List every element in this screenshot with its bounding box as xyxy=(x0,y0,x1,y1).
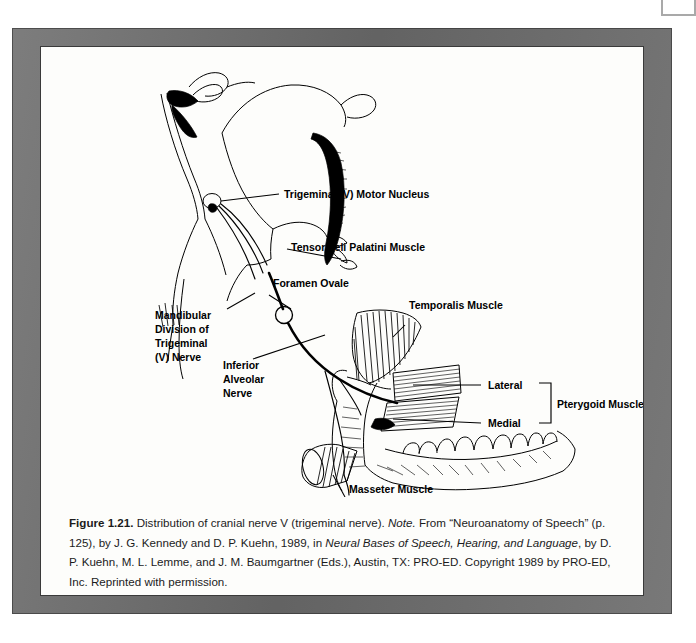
scan-edge-artifact xyxy=(661,0,696,16)
label-medial: Medial xyxy=(488,417,521,429)
label-inferior-alveolar-line-1: Inferior xyxy=(223,359,259,371)
photo-frame-border: Trigeminal (V) Motor Nucleus Tensor Veli… xyxy=(12,28,672,614)
label-pterygoid-muscles: Pterygoid Muscles xyxy=(557,398,643,410)
leader-mandibular-division xyxy=(227,293,255,309)
label-trigeminal-motor-nucleus: Trigeminal (V) Motor Nucleus xyxy=(284,188,429,200)
lateral-pterygoid-muscle-shape xyxy=(393,365,461,401)
anatomical-illustration: Trigeminal (V) Motor Nucleus Tensor Veli… xyxy=(41,47,643,497)
caption-figure-number: Figure 1.21. xyxy=(69,516,133,529)
masseter-muscle-shape xyxy=(299,444,357,487)
figure-caption: Figure 1.21. Distribution of cranial ner… xyxy=(69,513,619,591)
medial-pterygoid-muscle-shape xyxy=(371,397,459,431)
label-lateral: Lateral xyxy=(488,379,523,391)
label-mandibular-division-line-3: Trigeminal xyxy=(155,337,208,349)
label-foramen-ovale: Foramen Ovale xyxy=(273,277,349,289)
temporalis-muscle-shape xyxy=(352,310,421,389)
leader-temporalis-muscle xyxy=(393,325,405,337)
book-page-sheet: Trigeminal (V) Motor Nucleus Tensor Veli… xyxy=(41,47,643,595)
teeth-row xyxy=(403,433,557,454)
caption-source-title: Neural Bases of Speech, Hearing, and Lan… xyxy=(325,536,578,549)
leader-trigeminal-motor-nucleus xyxy=(221,194,279,201)
caption-part-1: Distribution of cranial nerve V (trigemi… xyxy=(133,516,388,529)
label-masseter-muscle: Masseter Muscle xyxy=(349,483,433,495)
label-mandibular-division-line-2: Division of xyxy=(155,323,209,335)
leader-inferior-alveolar-nerve xyxy=(253,335,325,359)
caption-note-label: Note. xyxy=(388,516,416,529)
leader-masseter-muscle xyxy=(333,475,345,497)
pterygoid-group-brace xyxy=(539,383,551,423)
label-tensor-veli-palatini-muscle: Tensor Veli Palatini Muscle xyxy=(291,241,425,253)
label-temporalis-muscle: Temporalis Muscle xyxy=(409,299,503,311)
trigeminal-motor-nucleus-structure xyxy=(203,133,347,279)
label-inferior-alveolar-line-3: Nerve xyxy=(223,387,252,399)
label-mandibular-division-line-4: (V) Nerve xyxy=(155,351,201,363)
mandible-bone xyxy=(332,370,575,491)
label-mandibular-division-line-1: Mandibular xyxy=(155,309,211,321)
label-inferior-alveolar-line-2: Alveolar xyxy=(223,373,264,385)
